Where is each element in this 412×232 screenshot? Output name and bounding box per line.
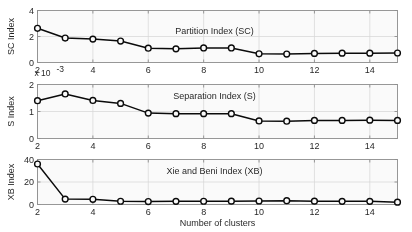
data-point-marker [256,198,262,204]
subplot-3: 246810121402040Xie and Beni Index (XB)XB… [6,155,400,228]
x-tick-label: 4 [90,141,95,151]
y-axis-label: XB Index [6,163,16,200]
data-point-marker [118,198,124,204]
x-tick-label: 10 [254,207,264,217]
data-point-marker [145,199,151,205]
y-tick-label: 0 [29,200,34,210]
subplot-title: Separation Index (S) [173,91,256,101]
data-point-marker [145,45,151,51]
data-point-marker [284,118,290,124]
subplot-title: Xie and Beni Index (XB) [166,166,262,176]
data-point-marker [312,51,318,57]
data-point-marker [256,51,262,57]
data-point-marker [118,101,124,107]
data-point-marker [118,38,124,44]
x-tick-label: 10 [254,141,264,151]
y-axis-multiplier-exponent: -3 [57,64,65,74]
data-point-marker [90,98,96,104]
data-point-marker [395,199,401,205]
data-point-marker [395,50,401,56]
data-point-marker [228,45,234,51]
y-tick-label: 0 [29,134,34,144]
data-point-marker [90,196,96,202]
x-tick-label: 6 [146,65,151,75]
data-point-marker [62,35,68,41]
data-point-marker [228,198,234,204]
y-tick-label: 1 [29,107,34,117]
y-tick-label: 2 [29,32,34,42]
data-point-marker [256,118,262,124]
cluster-validity-figure: 2468101214024Partition Index (SC)SC Inde… [0,0,412,232]
data-point-marker [284,51,290,57]
x-tick-label: 8 [201,65,206,75]
y-tick-label: 40 [24,155,34,165]
y-tick-label: 20 [24,177,34,187]
data-point-marker [173,111,179,117]
x-tick-label: 14 [365,65,375,75]
data-point-marker [62,196,68,202]
data-point-marker [312,198,318,204]
y-axis-label: SC Index [6,17,16,55]
x-tick-label: 4 [90,207,95,217]
data-point-marker [201,198,207,204]
y-tick-label: 2 [29,80,34,90]
data-point-marker [367,50,373,56]
y-tick-label: 0 [29,58,34,68]
y-tick-label: 4 [29,6,34,16]
data-point-marker [339,50,345,56]
x-tick-label: 6 [146,207,151,217]
x-tick-label: 2 [35,207,40,217]
subplot-1: 2468101214024Partition Index (SC)SC Inde… [6,6,400,78]
x-tick-label: 12 [309,141,319,151]
x-tick-label: 10 [254,65,264,75]
data-point-marker [35,161,41,167]
x-tick-label: 12 [309,65,319,75]
x-axis-label: Number of clusters [180,218,256,228]
data-point-marker [367,117,373,123]
data-point-marker [395,118,401,124]
data-point-marker [201,111,207,117]
data-point-marker [201,45,207,51]
data-point-marker [35,98,41,104]
data-point-marker [173,198,179,204]
x-tick-label: 4 [90,65,95,75]
data-point-marker [228,111,234,117]
x-tick-label: 8 [201,207,206,217]
data-point-marker [339,118,345,124]
figure-canvas: 2468101214024Partition Index (SC)SC Inde… [0,0,412,232]
x-tick-label: 14 [365,141,375,151]
x-tick-label: 12 [309,207,319,217]
y-axis-multiplier: x 10 [35,68,51,78]
data-point-marker [173,46,179,52]
x-tick-label: 2 [35,141,40,151]
data-point-marker [90,36,96,42]
x-tick-label: 6 [146,141,151,151]
x-tick-label: 14 [365,207,375,217]
data-point-marker [35,25,41,31]
subplot-title: Partition Index (SC) [175,26,254,36]
subplot-2: 2468101214012Separation Index (S)S Index [6,80,400,151]
y-axis-label: S Index [6,96,16,127]
data-point-marker [62,91,68,97]
data-point-marker [367,198,373,204]
data-point-marker [284,198,290,204]
x-tick-label: 8 [201,141,206,151]
data-point-marker [312,118,318,124]
data-point-marker [145,110,151,116]
data-point-marker [339,198,345,204]
